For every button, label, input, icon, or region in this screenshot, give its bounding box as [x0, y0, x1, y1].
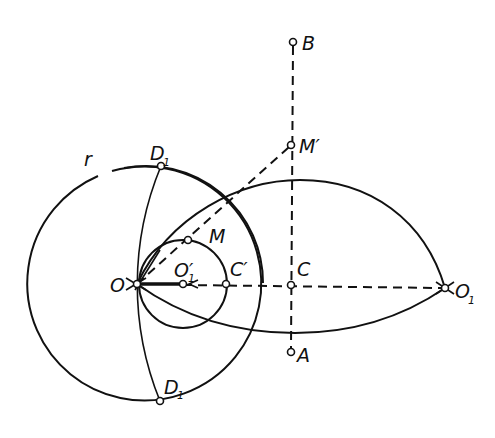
label-c-prime: C′: [230, 258, 248, 280]
label-d-top-sub: 1: [163, 156, 170, 169]
point-o1: [442, 285, 449, 292]
label-m-prime: M′: [299, 135, 320, 157]
point-m: [185, 237, 192, 244]
point-b: [290, 39, 297, 46]
label-d-bottom-sub: 1: [177, 389, 184, 402]
label-o1-sub: 1: [468, 294, 475, 307]
point-o: [134, 281, 141, 288]
dashed-line-o-o1: [183, 285, 441, 288]
label-m: M: [209, 225, 225, 247]
point-c-prime: [223, 281, 230, 288]
point-a: [288, 349, 295, 356]
dashed-line-b-a: [291, 46, 293, 348]
point-d-bottom: [157, 398, 164, 405]
label-o: O: [110, 274, 125, 296]
geometric-diagram: B M′ D 1 r M O O′ 1 C′ C O 1 A D 1: [0, 0, 495, 438]
label-r: r: [84, 148, 93, 170]
label-o-prime-sub: 1: [188, 272, 195, 285]
point-o-prime: [180, 281, 187, 288]
label-b: B: [302, 32, 315, 54]
label-a: A: [295, 344, 310, 366]
point-m-prime: [288, 142, 295, 149]
point-c: [288, 282, 295, 289]
label-c: C: [297, 258, 311, 280]
